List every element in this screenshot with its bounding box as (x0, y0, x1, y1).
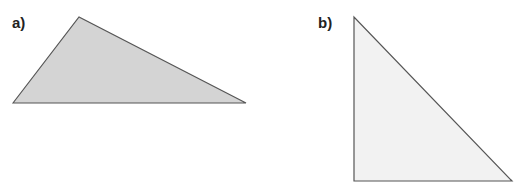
triangle-a (13, 17, 246, 103)
triangle-b (354, 17, 512, 181)
diagram-canvas (0, 0, 522, 187)
